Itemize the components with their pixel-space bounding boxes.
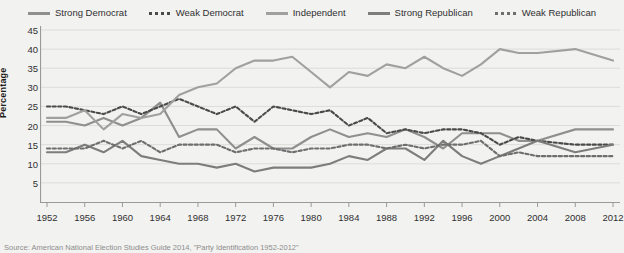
x-axis-ticks: 1952195619601964196819721976198019841988…: [40, 211, 620, 226]
legend-item-label: Weak Republican: [522, 8, 596, 18]
y-tick-label: 10: [18, 158, 38, 169]
legend-item-label: Strong Democrat: [55, 8, 127, 18]
x-tick-label: 1960: [112, 212, 133, 223]
y-tick-label: 20: [18, 120, 38, 131]
legend-strong-democrat[interactable]: Strong Democrat: [28, 8, 127, 18]
chart-legend: Strong DemocratWeak DemocratIndependentS…: [0, 0, 624, 26]
x-tick-label: 1952: [36, 212, 57, 223]
legend-item-label: Strong Republican: [395, 8, 473, 18]
legend-independent[interactable]: Independent: [266, 8, 346, 18]
x-tick-label: 1984: [338, 212, 359, 223]
series-line-independent: [47, 49, 613, 129]
legend-swatch-solid-icon: [266, 12, 288, 15]
x-tick-label: 1988: [376, 212, 397, 223]
x-tick-label: 1980: [301, 212, 322, 223]
legend-item-label: Independent: [293, 8, 346, 18]
legend-item-label: Weak Democrat: [176, 8, 244, 18]
legend-weak-republican[interactable]: Weak Republican: [495, 8, 596, 18]
y-tick-label: 15: [18, 139, 38, 150]
y-tick-label: 25: [18, 101, 38, 112]
x-tick-label: 2012: [602, 212, 623, 223]
chart-canvas: [40, 26, 620, 210]
y-tick-label: 45: [18, 25, 38, 36]
x-tick-label: 1956: [74, 212, 95, 223]
y-axis-ticks: 45403530252015105: [18, 26, 38, 210]
y-tick-label: 30: [18, 82, 38, 93]
x-tick-label: 2000: [489, 212, 510, 223]
legend-weak-democrat[interactable]: Weak Democrat: [149, 8, 244, 18]
x-tick-label: 1976: [263, 212, 284, 223]
y-tick-label: 35: [18, 63, 38, 74]
x-tick-label: 1972: [225, 212, 246, 223]
legend-swatch-dashed-icon: [495, 12, 517, 15]
legend-swatch-dashed-icon: [149, 12, 171, 15]
x-tick-label: 2004: [527, 212, 548, 223]
party-identification-line-chart: Strong DemocratWeak DemocratIndependentS…: [0, 0, 624, 253]
legend-swatch-solid-icon: [28, 12, 50, 15]
x-tick-label: 1992: [414, 212, 435, 223]
legend-swatch-solid-icon: [368, 12, 390, 15]
x-tick-label: 1968: [187, 212, 208, 223]
source-note: Source: American National Election Studi…: [4, 243, 620, 252]
plot-area: Percentage 45403530252015105 19521956196…: [0, 26, 624, 226]
y-tick-label: 40: [18, 44, 38, 55]
legend-strong-republican[interactable]: Strong Republican: [368, 8, 473, 18]
x-tick-label: 1996: [451, 212, 472, 223]
y-tick-label: 5: [18, 177, 38, 188]
series-line-strong-republican: [47, 141, 613, 172]
x-tick-label: 1964: [150, 212, 171, 223]
y-axis-label: Percentage: [0, 67, 8, 118]
x-tick-label: 2008: [565, 212, 586, 223]
